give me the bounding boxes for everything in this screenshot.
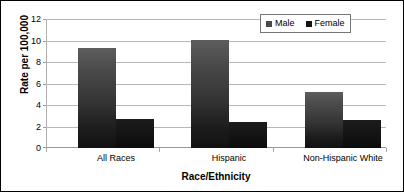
x-axis-tick-mark bbox=[386, 148, 387, 152]
y-axis-tick-label: 10 bbox=[31, 36, 41, 46]
chart-legend: MaleFemale bbox=[260, 14, 351, 33]
y-axis-tick-label: 0 bbox=[36, 143, 41, 153]
x-axis-tick-label: Non-Hispanic White bbox=[303, 153, 383, 163]
y-axis-title: Rate per 100,000 bbox=[19, 0, 30, 125]
x-axis-title: Race/Ethnicity bbox=[46, 171, 386, 182]
y-axis-tick-label: 6 bbox=[36, 79, 41, 89]
bar-male-hispanic bbox=[191, 40, 229, 148]
legend-label: Male bbox=[275, 19, 295, 28]
bar-male-all-races bbox=[78, 48, 116, 148]
x-axis-tick-mark bbox=[46, 148, 47, 152]
legend-entry-female: Female bbox=[306, 19, 345, 28]
legend-entry-male: Male bbox=[266, 19, 295, 28]
y-axis-tick-label: 4 bbox=[36, 100, 41, 110]
legend-swatch-icon bbox=[306, 21, 312, 27]
legend-swatch-icon bbox=[266, 21, 272, 27]
plot-area: 024681012 bbox=[46, 19, 386, 148]
legend-label: Female bbox=[315, 19, 345, 28]
bar-male-non-hispanic-white bbox=[305, 92, 343, 148]
bar-series-group bbox=[46, 19, 386, 148]
bar-female-non-hispanic-white bbox=[343, 120, 381, 148]
x-axis-tick-labels: All RacesHispanicNon-Hispanic White bbox=[46, 153, 386, 167]
bar-female-all-races bbox=[116, 119, 154, 148]
bar-chart: Rate per 100,000 024681012 All RacesHisp… bbox=[0, 0, 404, 192]
bar-female-hispanic bbox=[229, 122, 267, 148]
y-axis-tick-label: 8 bbox=[36, 57, 41, 67]
y-axis-tick-label: 2 bbox=[36, 122, 41, 132]
x-axis-tick-mark bbox=[159, 148, 160, 152]
y-axis-tick-label: 12 bbox=[31, 14, 41, 24]
x-axis-tick-label: All Races bbox=[97, 153, 135, 163]
x-axis-tick-mark bbox=[273, 148, 274, 152]
x-axis-tick-label: Hispanic bbox=[212, 153, 247, 163]
